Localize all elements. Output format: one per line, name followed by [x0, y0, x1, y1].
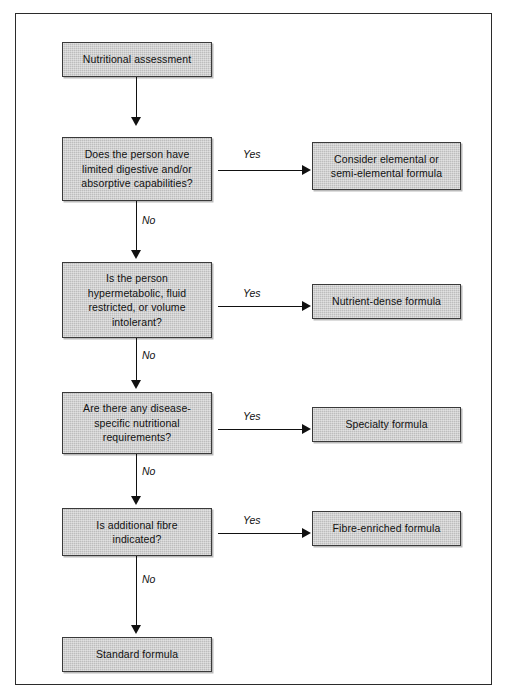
connector-question-2-yes	[218, 306, 304, 307]
node-outcome-elemental-formula: Consider elemental or semi-elemental for…	[312, 142, 461, 190]
node-nutritional-assessment-label: Nutritional assessment	[77, 52, 197, 67]
edge-label-yes-3: Yes	[243, 410, 261, 422]
node-question-additional-fibre: Is additional fibre indicated?	[62, 508, 212, 556]
node-outcome-specialty-formula: Specialty formula	[312, 407, 461, 442]
connector-question-1-yes	[218, 170, 304, 171]
edge-label-no-1: No	[142, 214, 155, 226]
node-outcome-nutrient-dense-formula-label: Nutrient-dense formula	[326, 294, 447, 309]
edge-label-no-2: No	[142, 349, 155, 361]
node-question-digestive-absorptive: Does the person have limited digestive a…	[62, 137, 212, 201]
connector-question-1-no	[136, 201, 137, 250]
edge-label-yes-4: Yes	[243, 514, 261, 526]
arrowhead-down-icon	[131, 496, 141, 505]
node-standard-formula: Standard formula	[62, 637, 212, 672]
arrowhead-right-icon	[302, 165, 311, 175]
node-standard-formula-label: Standard formula	[90, 647, 184, 662]
arrowhead-right-icon	[302, 528, 311, 538]
arrowhead-right-icon	[302, 301, 311, 311]
connector-question-4-no	[136, 556, 137, 625]
edge-label-yes-2: Yes	[243, 287, 261, 299]
connector-question-2-no	[136, 338, 137, 380]
connector-assessment-to-question-1	[136, 77, 137, 117]
edge-label-no-4: No	[142, 573, 155, 585]
node-question-additional-fibre-label: Is additional fibre indicated?	[90, 518, 183, 547]
arrowhead-down-icon	[131, 250, 141, 259]
node-outcome-fibre-enriched-formula: Fibre-enriched formula	[312, 511, 461, 546]
arrowhead-right-icon	[302, 424, 311, 434]
flowchart-canvas: Nutritional assessment Does the person h…	[0, 0, 505, 698]
connector-question-3-yes	[218, 429, 304, 430]
node-nutritional-assessment: Nutritional assessment	[62, 42, 212, 77]
node-question-digestive-absorptive-label: Does the person have limited digestive a…	[75, 147, 199, 191]
arrowhead-down-icon	[131, 625, 141, 634]
arrowhead-down-icon	[131, 380, 141, 389]
arrowhead-down-icon	[131, 117, 141, 126]
connector-question-4-yes	[218, 533, 304, 534]
node-question-disease-specific-label: Are there any disease- specific nutritio…	[77, 401, 197, 445]
node-outcome-specialty-formula-label: Specialty formula	[339, 417, 433, 432]
edge-label-no-3: No	[142, 465, 155, 477]
node-question-hypermetabolic-fluid: Is the person hypermetabolic, fluid rest…	[62, 262, 212, 338]
node-outcome-elemental-formula-label: Consider elemental or semi-elemental for…	[325, 152, 448, 181]
edge-label-yes-1: Yes	[243, 148, 261, 160]
node-question-disease-specific: Are there any disease- specific nutritio…	[62, 392, 212, 454]
connector-question-3-no	[136, 454, 137, 496]
node-question-hypermetabolic-fluid-label: Is the person hypermetabolic, fluid rest…	[82, 271, 192, 329]
node-outcome-fibre-enriched-formula-label: Fibre-enriched formula	[327, 521, 447, 536]
node-outcome-nutrient-dense-formula: Nutrient-dense formula	[312, 284, 461, 319]
